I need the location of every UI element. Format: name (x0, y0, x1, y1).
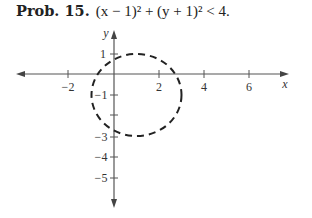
y-tick-label: −5 (95, 171, 108, 185)
y-tick-label: −4 (95, 150, 108, 164)
y-axis-down-arrow-icon (111, 199, 117, 208)
x-axis: −2 2 4 6 x (16, 70, 289, 94)
graph: −2 2 4 6 x 1 −1 −3 −4 −5 y (0, 0, 312, 218)
y-axis-label: y (102, 26, 109, 40)
x-tick-label: −2 (62, 80, 75, 94)
x-tick-label: 4 (201, 80, 207, 94)
y-tick-label: 1 (100, 47, 106, 61)
y-tick-label: −1 (95, 88, 108, 102)
y-tick-label: −3 (95, 130, 108, 144)
x-tick-label: 6 (246, 80, 252, 94)
x-tick-label: 2 (156, 80, 162, 94)
x-axis-label: x (281, 77, 288, 91)
x-axis-left-arrow-icon (16, 71, 25, 77)
y-axis-up-arrow-icon (111, 30, 117, 39)
